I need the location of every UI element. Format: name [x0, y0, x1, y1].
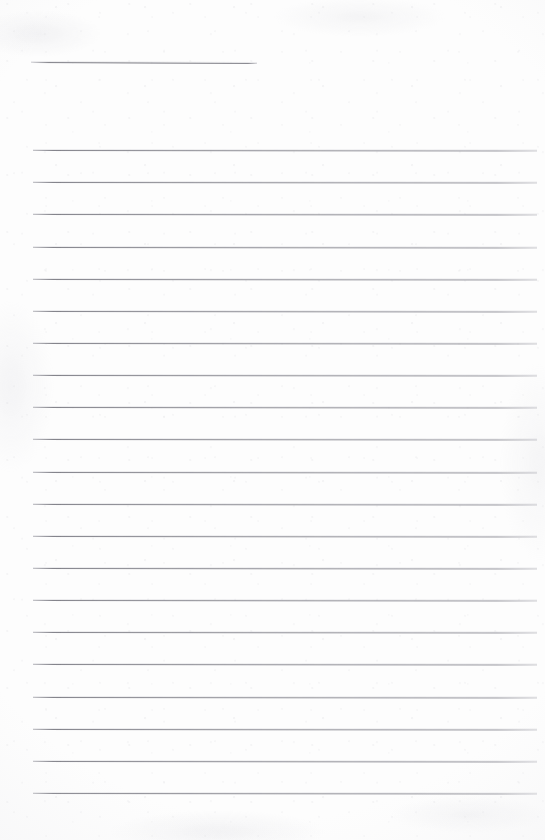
ruled-line [33, 439, 537, 441]
header-name-rule [31, 62, 257, 64]
ruled-line [33, 632, 537, 634]
ruled-line [33, 214, 537, 216]
ruled-line [33, 664, 537, 666]
ruled-line [33, 761, 537, 763]
paper-page [0, 0, 545, 840]
ruled-line [33, 311, 537, 313]
ruled-line [33, 343, 537, 345]
ruled-line [33, 247, 537, 249]
ruled-line [33, 182, 537, 184]
ruled-line [33, 793, 537, 795]
ruled-line [33, 279, 537, 281]
ruled-line [33, 568, 537, 570]
ruled-lines-layer [0, 0, 545, 840]
ruled-line [33, 697, 537, 699]
ruled-line [33, 407, 537, 409]
ruled-line [33, 472, 537, 474]
ruled-line [33, 729, 537, 731]
ruled-line [33, 375, 537, 377]
ruled-line [33, 536, 537, 538]
ruled-line [33, 504, 537, 506]
ruled-line [33, 600, 537, 602]
ruled-line [33, 150, 537, 152]
